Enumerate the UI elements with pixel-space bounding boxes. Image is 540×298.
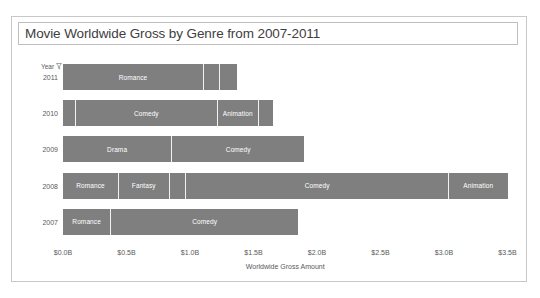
chart-container: Movie Worldwide Gross by Genre from 2007… [11, 16, 527, 282]
bar-segment[interactable] [204, 64, 221, 90]
stacked-bar[interactable]: RomanceFantasyComedyAnimation [63, 173, 508, 199]
bar-segment[interactable]: Romance [63, 209, 111, 235]
chart-row: 2007RomanceComedy [63, 209, 298, 235]
x-axis-tick-label: $0.0B [54, 249, 72, 256]
bar-segment[interactable]: Drama [63, 136, 172, 162]
y-axis-tick-label: 2007 [42, 218, 58, 225]
bar-segment[interactable]: Romance [63, 173, 119, 199]
bar-segment[interactable]: Animation [218, 100, 259, 126]
x-axis-tick-label: $0.5B [117, 249, 135, 256]
bar-segment-label: Drama [107, 146, 127, 153]
bar-segment[interactable]: Animation [449, 173, 507, 199]
stacked-bar[interactable]: RomanceComedy [63, 209, 298, 235]
x-axis-tick-label: $2.0B [308, 249, 326, 256]
plot-area: 2011Romance2010ComedyAnimation2009DramaC… [12, 17, 528, 283]
chart-row: 2008RomanceFantasyComedyAnimation [63, 173, 508, 199]
x-axis-tick-label: $1.0B [181, 249, 199, 256]
bar-segment-label: Romance [72, 218, 101, 225]
bar-segment-label: Comedy [192, 218, 217, 225]
bar-segment-label: Animation [463, 182, 493, 189]
x-axis-tick-label: $1.5B [244, 249, 262, 256]
bar-segment-label: Comedy [305, 182, 330, 189]
y-axis-tick-label: 2009 [42, 146, 58, 153]
stacked-bar[interactable]: ComedyAnimation [63, 100, 273, 126]
bar-segment-label: Fantasy [132, 182, 156, 189]
stacked-bar[interactable]: Romance [63, 64, 237, 90]
chart-row: 2011Romance [63, 64, 237, 90]
bar-segment[interactable] [259, 100, 273, 126]
chart-row: 2009DramaComedy [63, 136, 304, 162]
bar-segment-label: Romance [76, 182, 105, 189]
bar-segment-label: Comedy [134, 110, 159, 117]
bar-segment[interactable]: Comedy [111, 209, 298, 235]
y-axis-tick-label: 2010 [42, 110, 58, 117]
bar-segment[interactable]: Comedy [76, 100, 218, 126]
x-axis-tick-label: $3.5B [498, 249, 516, 256]
bar-segment[interactable]: Comedy [172, 136, 304, 162]
bar-segment-label: Animation [223, 110, 253, 117]
x-axis-tick-label: $2.5B [371, 249, 389, 256]
bar-segment-label: Comedy [226, 146, 251, 153]
x-axis-title: Worldwide Gross Amount [246, 263, 325, 270]
bar-segment[interactable] [220, 64, 237, 90]
chart-row: 2010ComedyAnimation [63, 100, 273, 126]
y-axis-tick-label: 2008 [42, 182, 58, 189]
bar-segment[interactable] [63, 100, 76, 126]
bar-segment[interactable]: Romance [63, 64, 204, 90]
bar-segment[interactable]: Comedy [186, 173, 449, 199]
bar-segment[interactable] [170, 173, 187, 199]
bar-segment[interactable]: Fantasy [119, 173, 170, 199]
x-axis-tick-label: $3.0B [435, 249, 453, 256]
y-axis-tick-label: 2011 [43, 74, 58, 81]
bar-segment-label: Romance [119, 74, 148, 81]
stacked-bar[interactable]: DramaComedy [63, 136, 304, 162]
